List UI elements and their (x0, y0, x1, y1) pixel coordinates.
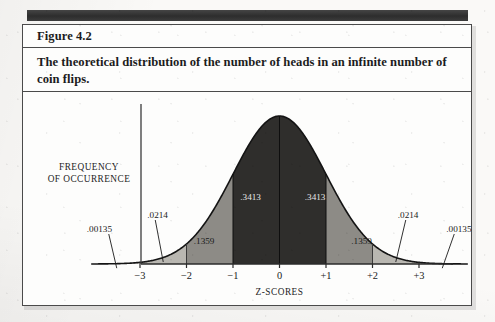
x-tick-label-1: −2 (174, 270, 200, 281)
band-label-5: .1359 (351, 236, 372, 246)
y-axis-label-line-2: OF OCCURRENCE (37, 174, 141, 186)
band-6 (373, 102, 420, 266)
band-label-3: .3413 (240, 192, 261, 202)
figure-frame: Figure 4.2 The theoretical distribution … (22, 24, 472, 306)
band-label-6: .0214 (398, 210, 419, 220)
y-axis-label-line-1: FREQUENCY (37, 162, 141, 174)
band-label-2: .1359 (194, 236, 215, 246)
leader-1 (155, 220, 163, 262)
page-title: Figure 4.2 (37, 29, 92, 44)
figure-caption-row: The theoretical distribution of the numb… (23, 48, 471, 92)
band-label-4: .3413 (305, 192, 326, 202)
band-3 (233, 102, 280, 266)
band-label-1: .0214 (147, 210, 168, 220)
x-tick-label-6: +3 (406, 270, 432, 281)
x-tick-label-2: −1 (220, 270, 246, 281)
figure-title-row: Figure 4.2 (23, 25, 471, 48)
x-tick-label-0: −3 (127, 270, 153, 281)
x-tick-label-4: +1 (313, 270, 339, 281)
figure-header-bar (27, 10, 468, 21)
band-label-0: .00135 (87, 224, 112, 234)
band-1 (140, 102, 187, 266)
leader-6 (396, 220, 406, 262)
band-label-7: .00135 (446, 224, 471, 234)
figure-caption: The theoretical distribution of the numb… (37, 54, 447, 87)
band-4 (280, 102, 327, 266)
chart-plot-area: FREQUENCY OF OCCURRENCE .00135.0214.1359… (23, 92, 473, 306)
y-axis-label: FREQUENCY OF OCCURRENCE (37, 162, 141, 185)
band-7 (419, 102, 466, 266)
x-axis-label: Z-SCORES (220, 287, 340, 297)
band-divider-lines (140, 116, 419, 264)
x-tick-label-5: +2 (360, 270, 386, 281)
x-tick-label-3: 0 (267, 270, 293, 281)
